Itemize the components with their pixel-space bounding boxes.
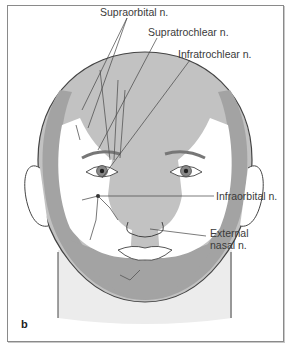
label-infraorbital: Infraorbital n. [216,190,277,202]
label-external-nasal-line1: External [210,227,249,239]
label-external-nasal-line2: nasal n. [210,239,247,251]
panel-letter: b [21,318,28,330]
label-supraorbital: Supraorbital n. [100,6,168,18]
label-supratrochlear: Supratrochlear n. [148,26,229,38]
nose-strip [132,60,158,230]
label-infratrochlear: Infratrochlear n. [178,48,252,60]
